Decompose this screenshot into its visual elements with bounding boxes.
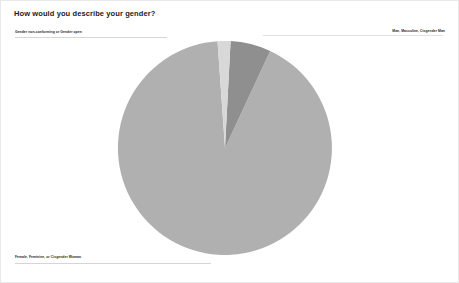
callout-label-man: Man, Masculine, Cisgender Man: [392, 30, 445, 33]
callout-label-gender-open: Gender non-conforming or Gender open: [15, 31, 82, 34]
chart-canvas: How would you describe your gender? Gend…: [0, 0, 459, 283]
pie-chart: [1, 1, 459, 283]
callout-label-woman: Female, Feminine, or Cisgender Woman: [15, 256, 81, 259]
